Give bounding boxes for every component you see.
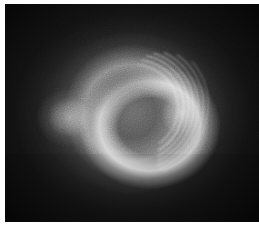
paper-margin-left bbox=[0, 0, 5, 230]
image-plate bbox=[5, 4, 259, 222]
concentric-arc-fringes bbox=[5, 4, 259, 222]
paper-margin-top bbox=[0, 0, 259, 4]
figure-root bbox=[0, 0, 259, 230]
paper-margin-bottom bbox=[0, 222, 259, 230]
